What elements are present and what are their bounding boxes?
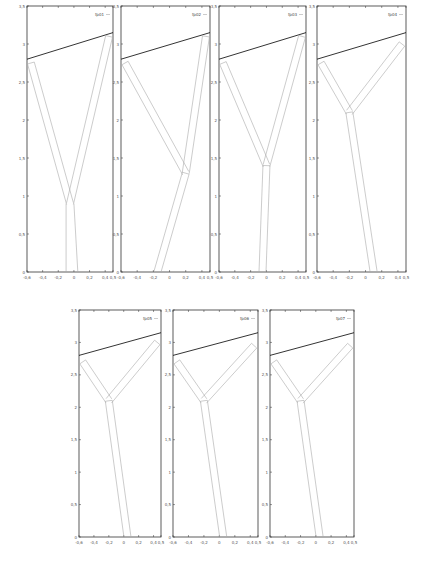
y-tick-label: 2 <box>265 405 268 410</box>
trunk-outline <box>200 400 226 537</box>
x-tick-label: 0 <box>122 540 125 545</box>
x-tick-label: -0,6 <box>313 275 321 280</box>
y-tick-label: 1 <box>74 470 77 475</box>
y-tick-label: 1 <box>168 470 171 475</box>
x-tick-label: 0,2 <box>279 275 286 280</box>
legend-label: fp02 <box>192 12 201 17</box>
x-tick-label: -0,2 <box>149 275 157 280</box>
ceiling-line <box>173 333 258 356</box>
x-tick-label: 0,4 <box>295 275 302 280</box>
ceiling-line <box>27 33 113 60</box>
y-tick-label: 3,5 <box>309 4 316 9</box>
left-branch-outline <box>80 360 112 403</box>
x-tick-label: -0,2 <box>200 540 208 545</box>
y-tick-label: 2,5 <box>19 80 26 85</box>
x-tick-label: 0 <box>315 540 318 545</box>
right-branch-outline <box>347 42 405 115</box>
right-branch-outline <box>106 340 160 403</box>
x-tick-label: -0,4 <box>185 540 193 545</box>
y-tick-label: 2 <box>22 118 25 123</box>
y-tick-label: 3,5 <box>262 308 269 313</box>
y-tick-label: 1 <box>116 194 119 199</box>
y-tick-label: 3,5 <box>211 4 218 9</box>
x-tick-label: -0,4 <box>231 275 239 280</box>
y-tick-label: 0,5 <box>19 232 26 237</box>
y-tick-label: 3 <box>22 42 25 47</box>
x-tick-label: 0,5 <box>351 540 358 545</box>
legend-label: fp03 <box>288 12 297 17</box>
trunk-outline <box>105 400 131 537</box>
y-tick-label: 3 <box>265 340 268 345</box>
y-tick-label: 3 <box>116 42 119 47</box>
x-tick-label: -0,4 <box>329 275 337 280</box>
x-tick-label: 0,5 <box>403 275 410 280</box>
y-tick-label: 1,5 <box>19 156 26 161</box>
right-branch-outline <box>298 343 353 403</box>
y-tick-label: 1,5 <box>262 437 269 442</box>
y-tick-label: 3,5 <box>165 308 172 313</box>
x-tick-label: 0 <box>218 540 221 545</box>
y-tick-label: 2,5 <box>113 80 120 85</box>
y-tick-label: 2,5 <box>309 80 316 85</box>
y-tick-label: 1 <box>265 470 268 475</box>
y-tick-label: 0 <box>22 270 25 275</box>
x-tick-label: -0,6 <box>266 540 274 545</box>
y-tick-label: 3,5 <box>19 4 26 9</box>
legend-label: fp06 <box>240 316 249 321</box>
x-tick-label: -0,6 <box>117 275 125 280</box>
y-tick-label: 3 <box>168 340 171 345</box>
x-tick-label: -0,2 <box>345 275 353 280</box>
ceiling-line <box>270 333 354 356</box>
legend-label: fp05 <box>143 316 152 321</box>
left-branch-outline <box>318 61 352 114</box>
y-tick-label: 0,5 <box>165 502 172 507</box>
legend-label: fp04 <box>388 12 397 17</box>
x-tick-label: -0,6 <box>23 275 31 280</box>
x-tick-label: -0,6 <box>75 540 83 545</box>
y-tick-label: 0 <box>116 270 119 275</box>
legend: fp04 <box>388 12 403 17</box>
ceiling-line <box>79 333 161 356</box>
x-tick-label: 0,4 <box>247 540 254 545</box>
y-tick-label: 3 <box>74 340 77 345</box>
x-tick-label: 0,2 <box>183 275 190 280</box>
y-tick-label: 0,5 <box>211 232 218 237</box>
y-tick-label: 0,5 <box>113 232 120 237</box>
y-tick-label: 1,5 <box>71 437 78 442</box>
y-tick-label: 2,5 <box>71 372 78 377</box>
legend: fp05 <box>143 316 158 321</box>
x-tick-label: 0,4 <box>343 540 350 545</box>
x-tick-label: -0,2 <box>247 275 255 280</box>
x-tick-label: 0,2 <box>232 540 239 545</box>
left-branch-outline <box>220 62 270 167</box>
y-tick-label: 0 <box>214 270 217 275</box>
y-tick-label: 2,5 <box>165 372 172 377</box>
x-tick-label: -0,4 <box>90 540 98 545</box>
legend: fp07 <box>336 316 351 321</box>
x-tick-label: 0,2 <box>86 275 93 280</box>
y-tick-label: 0,5 <box>309 232 316 237</box>
y-tick-label: 0,5 <box>71 502 78 507</box>
y-tick-label: 0 <box>312 270 315 275</box>
x-tick-label: 0 <box>168 275 171 280</box>
left-branch-outline <box>174 360 207 403</box>
x-tick-label: 0,4 <box>395 275 402 280</box>
chart-panel-fp03: 00,511,522,533,5-0,6-0,4-0,200,20,40,5fp… <box>205 2 312 284</box>
y-tick-label: 2 <box>214 118 217 123</box>
left-branch-outline <box>28 62 74 204</box>
y-tick-label: 0 <box>168 535 171 540</box>
y-tick-label: 0,5 <box>262 502 269 507</box>
ceiling-line <box>121 33 210 60</box>
chart-panel-fp06: 00,511,522,533,5-0,6-0,4-0,200,20,40,5fp… <box>159 306 264 549</box>
chart-panel-fp01: 00,511,522,533,5-0,6-0,4-0,200,20,40,5fp… <box>13 2 119 284</box>
x-tick-label: 0,2 <box>379 275 386 280</box>
y-tick-label: 2,5 <box>262 372 269 377</box>
chart-panel-fp02: 00,511,522,533,5-0,6-0,4-0,200,20,40,5fp… <box>107 2 216 284</box>
x-tick-label: 0 <box>73 275 76 280</box>
trunk-outline <box>297 400 323 537</box>
y-tick-label: 3 <box>312 42 315 47</box>
y-tick-label: 0 <box>74 535 77 540</box>
x-tick-label: -0,4 <box>133 275 141 280</box>
legend: fp03 <box>288 12 303 17</box>
trunk-outline <box>346 112 377 273</box>
